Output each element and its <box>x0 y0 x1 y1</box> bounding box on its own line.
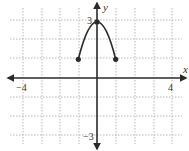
point-right <box>113 57 118 62</box>
tick-label-x-neg4: −4 <box>16 82 27 93</box>
tick-label-y-neg3: −3 <box>83 131 94 142</box>
tick-label-x-4: 4 <box>168 82 173 93</box>
x-axis-label: x <box>182 63 188 75</box>
point-left <box>76 57 81 62</box>
point-vertex <box>94 19 99 24</box>
coordinate-plane: y x −4 4 3 −3 <box>0 0 189 151</box>
grid <box>10 8 182 144</box>
y-axis-label: y <box>102 1 108 13</box>
tick-label-y-3: 3 <box>87 15 92 26</box>
